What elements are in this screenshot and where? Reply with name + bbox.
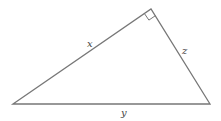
label-y: y — [120, 107, 127, 118]
triangle — [13, 9, 210, 104]
label-z: z — [181, 45, 188, 56]
right-triangle-diagram: x z y — [0, 0, 221, 121]
label-x: x — [87, 38, 93, 49]
